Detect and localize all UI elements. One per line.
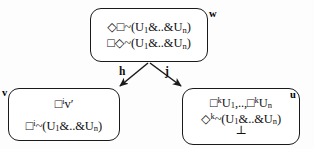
edge-label-h: h	[119, 66, 125, 78]
edge-label-j: j	[165, 66, 169, 78]
node-v[interactable]: □iv′ □i~(U1&..&Un)	[8, 88, 120, 141]
node-v-formula-2: □i~(U1&..&Un)	[26, 118, 102, 133]
node-u-formula-1: □kU1,..,□kUn	[210, 95, 272, 110]
node-u-formula-3: ⊥	[235, 123, 246, 137]
node-v-formula-1: □iv′	[55, 96, 74, 111]
node-w[interactable]: ◇□~(U1&..&Un) □◇~(U1&..&Un)	[90, 8, 208, 62]
node-w-formula-1: ◇□~(U1&..&Un)	[107, 20, 190, 35]
node-w-formula-2: □◇~(U1&..&Un)	[107, 36, 190, 51]
node-v-label: v	[2, 88, 7, 99]
diagram-canvas: ◇□~(U1&..&Un) □◇~(U1&..&Un) w □iv′ □i~(U…	[0, 0, 314, 149]
node-w-label: w	[209, 9, 217, 20]
node-u[interactable]: □kU1,..,□kUn ◇k~(U1&..&Un) ⊥	[182, 88, 300, 145]
node-u-label: u	[290, 90, 296, 101]
